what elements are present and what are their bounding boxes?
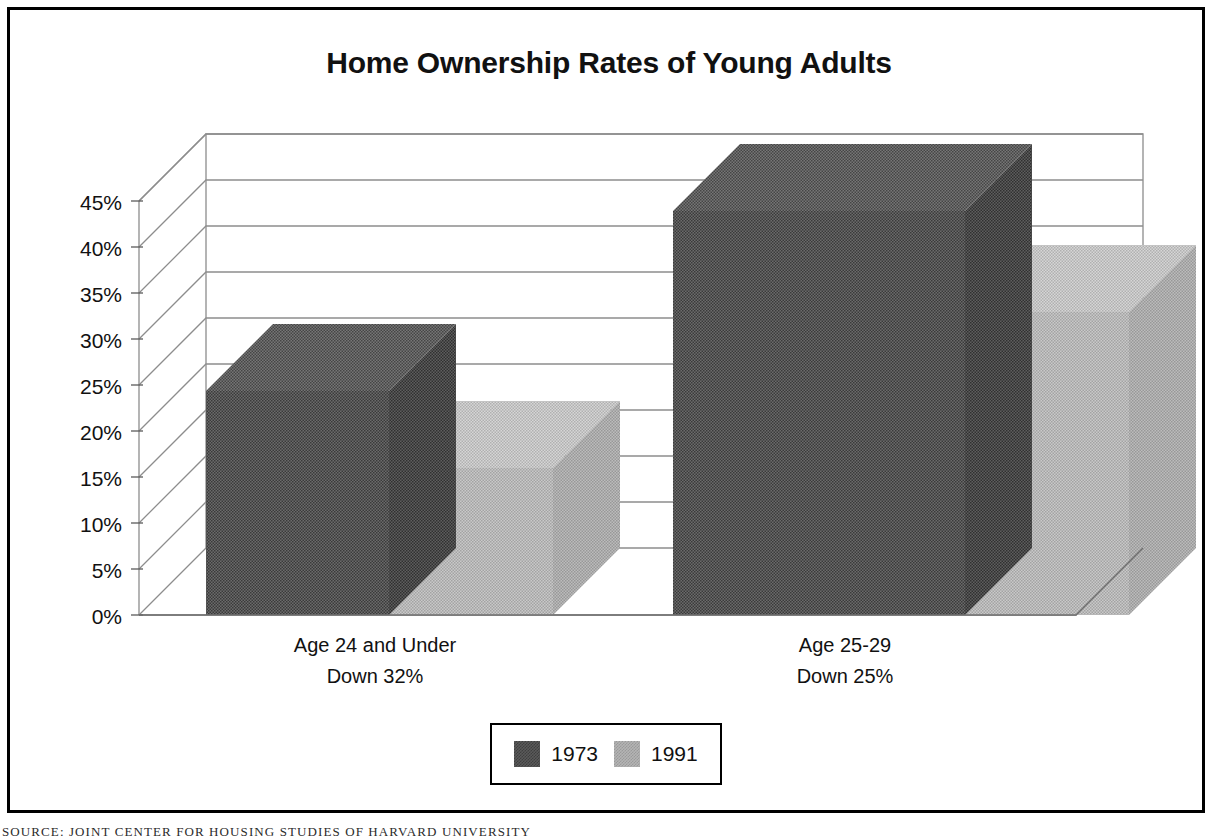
category-label-line1: Age 24 and Under: [210, 630, 540, 661]
chart-page: Home Ownership Rates of Young Adults: [0, 0, 1215, 837]
legend-swatch-1973-icon: [514, 741, 540, 767]
chart-legend: 1973 1991: [490, 723, 722, 785]
ytick-label-15: 15%: [44, 468, 122, 489]
bar-1973-age-25-29[interactable]: [673, 144, 1032, 615]
source-note: SOURCE: JOINT CENTER FOR HOUSING STUDIES…: [2, 824, 531, 837]
chart-svg: [10, 10, 1208, 816]
bar-1973-age-24-and-under[interactable]: [206, 324, 456, 615]
ytick-label-40: 40%: [44, 238, 122, 259]
ytick-label-10: 10%: [44, 514, 122, 535]
ytick-label-25: 25%: [44, 376, 122, 397]
legend-item-1991[interactable]: 1991: [614, 741, 698, 767]
legend-label-1973: 1973: [551, 742, 598, 766]
category-label-age-24-and-under: Age 24 and Under Down 32%: [210, 630, 540, 692]
ytick-label-30: 30%: [44, 330, 122, 351]
ytick-label-20: 20%: [44, 422, 122, 443]
y-tick-marks: [131, 201, 143, 615]
ytick-label-0: 0%: [44, 606, 122, 627]
chart-frame: Home Ownership Rates of Young Adults: [7, 7, 1205, 813]
plot-area: 0% 5% 10% 15% 20% 25% 30% 35% 40% 45% Ag…: [10, 10, 1208, 816]
category-label-age-25-29: Age 25-29 Down 25%: [680, 630, 1010, 692]
ytick-label-35: 35%: [44, 284, 122, 305]
legend-swatch-1991-icon: [614, 741, 640, 767]
category-label-line2: Down 25%: [680, 661, 1010, 692]
legend-item-1973[interactable]: 1973: [514, 741, 598, 767]
ytick-label-5: 5%: [44, 560, 122, 581]
category-label-line1: Age 25-29: [680, 630, 1010, 661]
category-label-line2: Down 32%: [210, 661, 540, 692]
legend-label-1991: 1991: [651, 742, 698, 766]
ytick-label-45: 45%: [44, 192, 122, 213]
